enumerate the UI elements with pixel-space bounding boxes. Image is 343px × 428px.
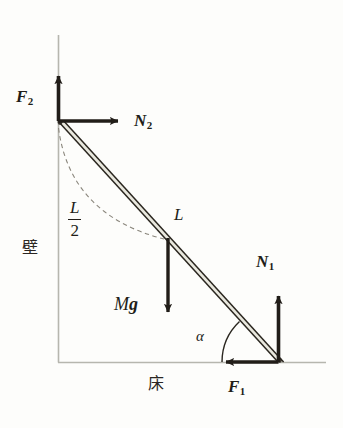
label-n1: N1 <box>256 253 274 272</box>
label-n1-symbol: N <box>256 252 268 271</box>
physics-diagram: F2 N2 L 2 L 壁 Mg N1 α 床 F1 <box>0 0 343 428</box>
label-f2-symbol: F <box>16 87 27 106</box>
label-angle-alpha: α <box>196 329 204 344</box>
label-angle-alpha-text: α <box>196 328 204 344</box>
label-floor: 床 <box>148 376 164 392</box>
angle-alpha-arc <box>222 322 240 363</box>
label-mg: Mg <box>114 295 138 313</box>
half-length-numerator: L <box>68 198 81 219</box>
diagram-canvas <box>0 0 343 428</box>
label-mg-gravity: g <box>129 294 138 314</box>
label-f2: F2 <box>16 88 33 107</box>
half-length-denominator: 2 <box>68 220 81 241</box>
label-length-l-text: L <box>174 205 183 224</box>
label-f2-subscript: 2 <box>28 95 34 107</box>
label-mg-mass: M <box>114 294 129 314</box>
label-n2-subscript: 2 <box>147 119 153 131</box>
label-n2: N2 <box>134 112 152 131</box>
label-wall: 壁 <box>22 240 38 256</box>
label-n1-subscript: 1 <box>269 260 275 272</box>
ladder-beam <box>58 121 284 362</box>
label-half-length: L 2 <box>68 198 81 241</box>
label-wall-text: 壁 <box>22 238 38 257</box>
label-f1-symbol: F <box>228 377 239 396</box>
label-f1: F1 <box>228 378 245 397</box>
label-f1-subscript: 1 <box>240 385 246 397</box>
label-floor-text: 床 <box>148 374 164 393</box>
label-n2-symbol: N <box>134 111 146 130</box>
label-length-l: L <box>174 206 183 223</box>
